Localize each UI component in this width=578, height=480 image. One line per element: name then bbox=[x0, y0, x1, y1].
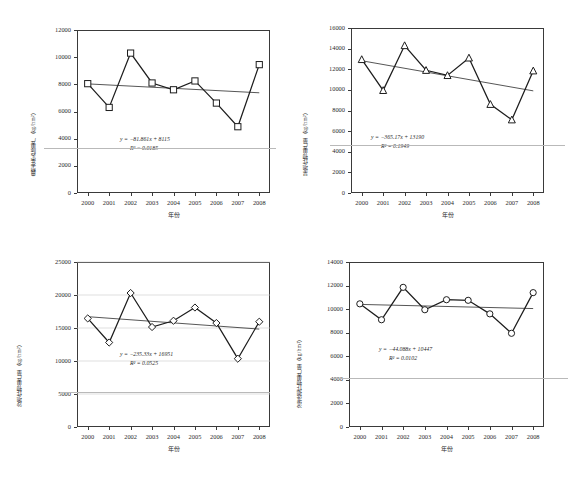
y-tick-mark bbox=[348, 28, 351, 29]
y-tick-mark bbox=[348, 152, 351, 153]
y-tick-mark bbox=[346, 356, 349, 357]
scan-artifact-rule bbox=[44, 148, 276, 149]
y-tick-mark bbox=[74, 262, 77, 263]
y-tick-mark bbox=[74, 84, 77, 85]
x-tick-mark bbox=[238, 427, 239, 430]
trendline-annotation: y = −81.861x + 8115R² = 0.0185 bbox=[120, 135, 170, 153]
y-tick-mark bbox=[346, 403, 349, 404]
y-tick-label: 2000 bbox=[319, 169, 345, 175]
y-tick-mark bbox=[348, 111, 351, 112]
y-tick-label: 0 bbox=[319, 190, 345, 196]
x-tick-label-2007: 2007 bbox=[227, 200, 249, 206]
y-tick-mark bbox=[346, 427, 349, 428]
x-tick-label-2002: 2002 bbox=[120, 434, 142, 440]
data-point-marker bbox=[400, 284, 406, 290]
y-tick-mark bbox=[346, 333, 349, 334]
x-tick-mark bbox=[109, 427, 110, 430]
x-tick-label-2003: 2003 bbox=[414, 434, 436, 440]
x-tick-mark bbox=[533, 427, 534, 430]
y-tick-label: 12000 bbox=[319, 66, 345, 72]
data-point-marker bbox=[106, 104, 112, 110]
data-point-marker bbox=[192, 78, 198, 84]
x-tick-mark bbox=[490, 427, 491, 430]
x-axis-label-bottom-right: 年份 bbox=[349, 446, 544, 452]
x-tick-label-2007: 2007 bbox=[501, 200, 523, 206]
x-tick-label-2005: 2005 bbox=[184, 200, 206, 206]
x-tick-label-2008: 2008 bbox=[522, 200, 544, 206]
x-tick-label-2000: 2000 bbox=[351, 200, 373, 206]
x-tick-mark bbox=[405, 193, 406, 196]
x-tick-mark bbox=[109, 193, 110, 196]
x-tick-label-2006: 2006 bbox=[205, 200, 227, 206]
trendline-annotation: y = −235.33x + 16951R² = 0.0525 bbox=[120, 350, 173, 368]
y-tick-mark bbox=[74, 193, 77, 194]
y-tick-label: 20000 bbox=[43, 292, 71, 298]
y-tick-mark bbox=[346, 380, 349, 381]
y-tick-label: 8000 bbox=[319, 107, 345, 113]
y-tick-mark bbox=[348, 193, 351, 194]
data-point-marker bbox=[128, 50, 134, 56]
x-tick-mark bbox=[533, 193, 534, 196]
x-tick-mark bbox=[174, 427, 175, 430]
x-tick-mark bbox=[152, 427, 153, 430]
x-tick-mark bbox=[512, 193, 513, 196]
data-point-marker bbox=[357, 301, 363, 307]
y-tick-mark bbox=[74, 394, 77, 395]
x-tick-mark bbox=[490, 193, 491, 196]
x-tick-mark bbox=[259, 427, 260, 430]
y-tick-mark bbox=[346, 309, 349, 310]
x-tick-mark bbox=[469, 193, 470, 196]
x-tick-mark bbox=[195, 193, 196, 196]
x-tick-mark bbox=[383, 193, 384, 196]
data-point-marker bbox=[487, 311, 493, 317]
x-tick-label-2000: 2000 bbox=[349, 434, 371, 440]
data-point-marker bbox=[170, 87, 176, 93]
y-tick-label: 15000 bbox=[43, 325, 71, 331]
data-point-marker bbox=[487, 101, 494, 108]
x-tick-label-2006: 2006 bbox=[479, 200, 501, 206]
trendline-annotation: y = −365.17x + 13190R² = 0.1949 bbox=[371, 133, 424, 151]
data-point-marker bbox=[465, 54, 472, 61]
x-tick-label-2004: 2004 bbox=[163, 434, 185, 440]
x-tick-label-2002: 2002 bbox=[120, 200, 142, 206]
y-tick-mark bbox=[74, 166, 77, 167]
x-tick-mark bbox=[88, 427, 89, 430]
x-axis-label-top-left: 年份 bbox=[77, 212, 270, 218]
y-tick-mark bbox=[74, 30, 77, 31]
y-tick-label: 12000 bbox=[315, 282, 343, 288]
y-tick-mark bbox=[346, 262, 349, 263]
y-tick-mark bbox=[74, 57, 77, 58]
x-tick-label-2005: 2005 bbox=[458, 200, 480, 206]
y-tick-label: 16000 bbox=[319, 25, 345, 31]
x-tick-label-2005: 2005 bbox=[457, 434, 479, 440]
y-tick-mark bbox=[74, 295, 77, 296]
data-point-marker bbox=[401, 42, 408, 49]
x-tick-label-2001: 2001 bbox=[98, 200, 120, 206]
x-tick-label-2006: 2006 bbox=[479, 434, 501, 440]
x-tick-mark bbox=[426, 193, 427, 196]
x-tick-mark bbox=[447, 427, 448, 430]
x-tick-label-2008: 2008 bbox=[248, 200, 270, 206]
x-tick-label-2003: 2003 bbox=[415, 200, 437, 206]
x-tick-mark bbox=[362, 193, 363, 196]
data-point-marker bbox=[530, 290, 536, 296]
x-tick-mark bbox=[216, 193, 217, 196]
data-point-marker bbox=[508, 330, 514, 336]
y-tick-label: 14000 bbox=[319, 45, 345, 51]
plot-area-bottom-right bbox=[289, 240, 578, 480]
x-tick-mark bbox=[238, 193, 239, 196]
y-tick-mark bbox=[348, 172, 351, 173]
y-tick-mark bbox=[348, 49, 351, 50]
y-tick-label: 12000 bbox=[45, 27, 71, 33]
y-tick-label: 8000 bbox=[45, 81, 71, 87]
x-tick-label-2001: 2001 bbox=[372, 200, 394, 206]
scan-artifact-rule bbox=[60, 392, 270, 393]
chart-panel-bottom-left: 沙地作物单产量（kg/hm²） 年份 050001000015000200002… bbox=[0, 240, 289, 480]
x-tick-mark bbox=[448, 193, 449, 196]
trendline-r2: R² = 0.1949 bbox=[381, 142, 424, 151]
x-tick-mark bbox=[195, 427, 196, 430]
x-tick-label-2002: 2002 bbox=[394, 200, 416, 206]
x-tick-mark bbox=[468, 427, 469, 430]
x-tick-mark bbox=[152, 193, 153, 196]
x-tick-label-2001: 2001 bbox=[98, 434, 120, 440]
